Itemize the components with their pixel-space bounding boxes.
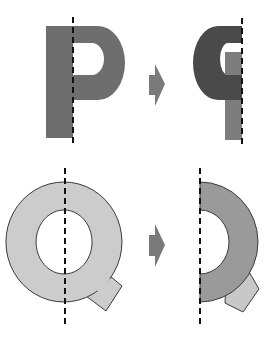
letter-q-mirrored [200, 168, 259, 327]
p-mirror-counter-fill [225, 52, 242, 75]
arrow-icon-row2 [149, 224, 165, 267]
letter-q-original [6, 168, 122, 327]
letter-p-original [46, 17, 125, 146]
right-arrow-icon [149, 64, 165, 106]
arrow-icon-row1 [149, 64, 165, 106]
mirror-diagram [0, 0, 268, 337]
letter-p-mirrored [193, 18, 242, 147]
p-shape [46, 26, 125, 138]
right-arrow-icon [149, 224, 165, 267]
